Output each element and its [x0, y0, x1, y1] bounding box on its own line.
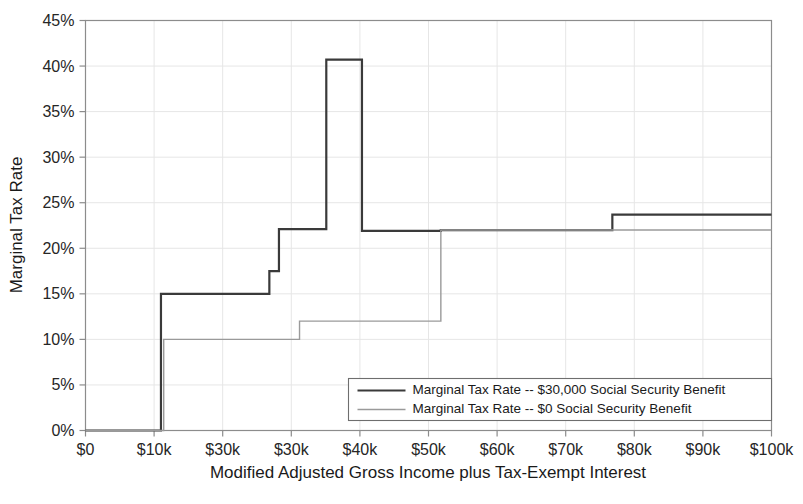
y-tick-label: 30% — [42, 149, 74, 166]
x-tick-label: $40k — [343, 441, 379, 458]
y-tick-label: 0% — [51, 422, 74, 439]
x-tick-label: $90k — [686, 441, 722, 458]
x-tick-label: $30k — [274, 441, 310, 458]
y-axis-ticks: 0%5%10%15%20%25%30%35%40%45% — [42, 12, 85, 439]
y-tick-label: 45% — [42, 12, 74, 29]
x-axis-title: Modified Adjusted Gross Income plus Tax-… — [210, 463, 646, 482]
grid-lines — [86, 21, 772, 431]
y-tick-label: 35% — [42, 103, 74, 120]
y-axis-title: Marginal Tax Rate — [7, 157, 26, 294]
y-tick-label: 15% — [42, 285, 74, 302]
x-tick-label: $70k — [548, 441, 584, 458]
chart-figure: 0%5%10%15%20%25%30%35%40%45% $0$10k$30k$… — [0, 0, 803, 504]
y-tick-label: 10% — [42, 331, 74, 348]
y-tick-label: 25% — [42, 194, 74, 211]
x-tick-label: $0 — [77, 441, 95, 458]
marginal-tax-rate-chart: 0%5%10%15%20%25%30%35%40%45% $0$10k$30k$… — [0, 0, 803, 504]
y-tick-label: 40% — [42, 58, 74, 75]
x-tick-label: $50k — [411, 441, 447, 458]
y-tick-label: 5% — [51, 376, 74, 393]
x-tick-label: $100k — [750, 441, 795, 458]
x-tick-label: $60k — [480, 441, 516, 458]
legend-label-1: Marginal Tax Rate -- $0 Social Security … — [413, 401, 692, 416]
y-tick-label: 20% — [42, 240, 74, 257]
chart-legend: Marginal Tax Rate -- $30,000 Social Secu… — [349, 379, 772, 421]
x-tick-label: $10k — [137, 441, 173, 458]
legend-label-0: Marginal Tax Rate -- $30,000 Social Secu… — [413, 382, 726, 397]
x-tick-label: $80k — [617, 441, 653, 458]
x-axis-ticks: $0$10k$30k$30k$40k$50k$60k$70k$80k$90k$1… — [77, 431, 795, 458]
x-tick-label: $30k — [205, 441, 241, 458]
